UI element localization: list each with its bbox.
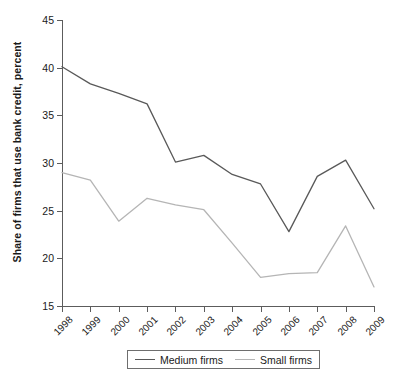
x-tick-mark-2008 (346, 307, 347, 312)
x-tick-label-2000: 2000 (108, 314, 132, 338)
y-tick-label: 15 (42, 300, 54, 312)
legend-label-small-firms: Small firms (260, 354, 312, 366)
x-tick-label-1999: 1999 (80, 314, 104, 338)
legend-item-small-firms: Small firms (235, 354, 312, 366)
chart-legend: Medium firms Small firms (127, 350, 320, 369)
x-tick-label-2007: 2007 (307, 314, 331, 338)
x-tick-mark-2001 (147, 307, 148, 312)
series-lines (62, 20, 375, 307)
chart-figure: Share of firms that use bank credit, per… (0, 0, 396, 381)
x-tick-label-2004: 2004 (221, 314, 245, 338)
x-tick-label-2002: 2002 (165, 314, 189, 338)
x-tick-mark-2003 (204, 307, 205, 312)
x-tick-mark-2007 (317, 307, 318, 312)
y-tick-label: 45 (42, 14, 54, 26)
source-note (8, 374, 158, 381)
legend-swatch-medium-firms (135, 359, 155, 361)
y-tick-label: 35 (42, 109, 54, 121)
y-tick-label: 30 (42, 157, 54, 169)
plot-area: 15202530354045 1998199920002001200220032… (62, 20, 375, 307)
x-tick-label-2005: 2005 (250, 314, 274, 338)
legend-label-medium-firms: Medium firms (160, 354, 223, 366)
x-tick-mark-2009 (374, 307, 375, 312)
y-tick-label: 25 (42, 205, 54, 217)
x-tick-mark-2000 (119, 307, 120, 312)
legend-swatch-small-firms (235, 359, 255, 361)
x-tick-mark-1998 (62, 307, 63, 312)
y-tick-label: 40 (42, 62, 54, 74)
x-tick-mark-2002 (175, 307, 176, 312)
x-tick-label-1998: 1998 (51, 314, 75, 338)
x-tick-label-2009: 2009 (363, 314, 387, 338)
series-line-small-firms (62, 173, 374, 287)
y-axis-title: Share of firms that use bank credit, per… (6, 0, 28, 307)
x-tick-label-2001: 2001 (136, 314, 160, 338)
x-tick-mark-2004 (232, 307, 233, 312)
legend-item-medium-firms: Medium firms (135, 354, 223, 366)
x-tick-mark-1999 (90, 307, 91, 312)
x-tick-label-2003: 2003 (193, 314, 217, 338)
y-tick-label: 20 (42, 252, 54, 264)
x-tick-label-2006: 2006 (278, 314, 302, 338)
x-tick-mark-2006 (289, 307, 290, 312)
x-tick-label-2008: 2008 (335, 314, 359, 338)
x-tick-mark-2005 (261, 307, 262, 312)
